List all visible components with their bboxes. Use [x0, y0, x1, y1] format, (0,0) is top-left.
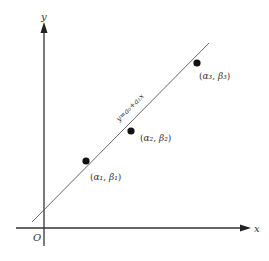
y-axis-label: y: [40, 11, 47, 22]
x-axis-label: x: [254, 223, 260, 234]
data-point-2-label: (α₂, β₂): [140, 133, 171, 143]
x-axis-arrow-icon: [240, 225, 251, 232]
y-axis-arrow-icon: [41, 22, 48, 33]
data-point-1: [82, 157, 89, 164]
data-point-3-label: (α₃, β₃): [199, 71, 230, 81]
fit-line-equation: y=a₀+a₁x: [113, 91, 146, 124]
fit-line: [32, 43, 209, 222]
origin-label: O: [33, 232, 41, 243]
data-point-2: [127, 127, 134, 134]
data-point-3: [193, 59, 200, 66]
linear-regression-diagram: y x O y=a₀+a₁x (α₁, β₁) (α₂, β₂) (α₃, β₃…: [0, 0, 269, 261]
data-point-1-label: (α₁, β₁): [90, 172, 121, 182]
